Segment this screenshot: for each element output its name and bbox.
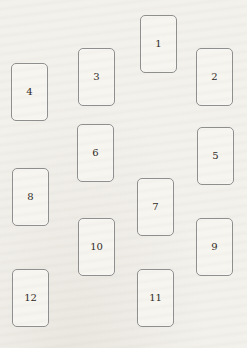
spread-card-1: 1 — [140, 15, 177, 73]
card-number: 1 — [155, 39, 161, 49]
card-number: 7 — [152, 202, 158, 212]
spread-card-2: 2 — [196, 48, 233, 106]
spread-card-4: 4 — [11, 63, 48, 121]
card-number: 5 — [212, 151, 218, 161]
card-number: 3 — [93, 72, 99, 82]
card-number: 11 — [149, 293, 162, 303]
spread-card-3: 3 — [78, 48, 115, 106]
book-page: THE HOROSCOPE SPREAD 1 2 3 4 5 6 7 8 9 1… — [0, 0, 247, 348]
spread-card-6: 6 — [77, 124, 114, 182]
spread-card-11: 11 — [137, 269, 174, 327]
card-number: 9 — [211, 242, 217, 252]
spread-card-12: 12 — [12, 269, 49, 327]
spread-card-7: 7 — [137, 178, 174, 236]
spread-card-5: 5 — [197, 127, 234, 185]
card-number: 6 — [92, 148, 98, 158]
card-number: 8 — [27, 192, 33, 202]
card-number: 12 — [24, 293, 37, 303]
card-number: 10 — [90, 242, 103, 252]
spread-card-8: 8 — [12, 168, 49, 226]
spread-title-cropped: THE HOROSCOPE SPREAD — [0, 0, 247, 2]
spread-card-10: 10 — [78, 218, 115, 276]
spread-card-9: 9 — [196, 218, 233, 276]
card-number: 4 — [26, 87, 32, 97]
card-number: 2 — [211, 72, 217, 82]
